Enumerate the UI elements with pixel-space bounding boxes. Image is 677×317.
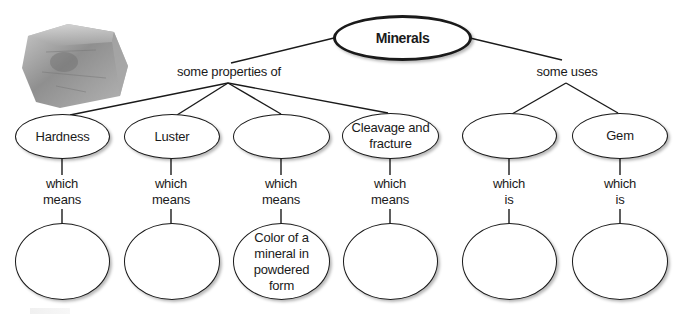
property-node-hardness[interactable]: Hardness [15,114,110,159]
property-node-blank[interactable] [233,114,330,159]
definition-node-use-blank[interactable] [462,223,557,300]
definition-node-cleavage[interactable] [343,223,438,300]
use-node-gem[interactable]: Gem [572,113,668,159]
linker-gem: whichis [590,176,650,208]
concept-map: Minerals some properties of some uses Ha… [0,0,677,317]
property-node-cleavage[interactable]: Cleavage and fracture [342,113,439,159]
definition-node-hardness[interactable] [15,223,110,300]
linker-hardness: whichmeans [32,176,92,208]
connector-properties: some properties of [170,64,288,80]
linker-blank-property: whichmeans [251,176,311,208]
root-label: Minerals [376,30,430,46]
definition-node-luster[interactable] [124,223,220,300]
linker-luster: whichmeans [141,176,201,208]
root-node-minerals: Minerals [333,15,472,61]
property-node-luster[interactable]: Luster [124,114,220,159]
figure-mark [30,308,70,314]
connector-uses: some uses [532,64,602,80]
use-node-blank[interactable] [462,113,557,159]
linker-cleavage: whichmeans [360,176,420,208]
definition-node-gem[interactable] [572,223,668,300]
linker-blank-use: whichis [479,176,539,208]
definition-node-streak[interactable]: Color of a mineral in powdered form [233,223,330,300]
